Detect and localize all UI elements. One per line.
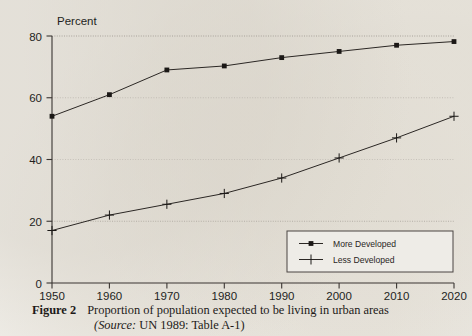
data-point-marker xyxy=(220,189,229,198)
data-point-marker xyxy=(164,68,169,73)
series-less-developed xyxy=(47,112,458,235)
y-tick-label-80: 80 xyxy=(29,31,42,43)
data-point-marker xyxy=(222,64,227,69)
figure-number: Figure 2 xyxy=(32,303,76,317)
x-tick-label-2020: 2020 xyxy=(441,290,467,300)
x-tick-label-1980: 1980 xyxy=(212,290,238,300)
figure-caption: Figure 2Proportion of population expecte… xyxy=(32,303,468,332)
y-tick-label-0: 0 xyxy=(36,278,42,290)
source-prefix: (Source: xyxy=(94,318,136,332)
y-tick-label-60: 60 xyxy=(29,92,42,104)
figure-container: Percent 80 60 40 20 0 1950 1960 1970 198… xyxy=(0,0,472,336)
data-point-marker xyxy=(449,112,458,121)
data-point-marker xyxy=(392,133,401,142)
legend-label-more-developed: More Developed xyxy=(333,239,396,249)
data-point-marker xyxy=(452,39,457,44)
series-more-developed xyxy=(50,39,457,119)
data-point-marker xyxy=(107,92,112,97)
x-tick-label-2010: 2010 xyxy=(384,290,410,300)
caption-text: Proportion of population expected to be … xyxy=(87,303,389,317)
x-tick-label-1960: 1960 xyxy=(97,290,123,300)
source-rest: UN 1989: Table A-1) xyxy=(136,318,244,332)
x-tick-label-1970: 1970 xyxy=(154,290,180,300)
data-point-marker xyxy=(279,55,284,60)
data-point-marker xyxy=(337,49,342,54)
chart-legend: More Developed Less Developed xyxy=(287,231,453,272)
data-series-layer xyxy=(47,39,458,235)
gridlines xyxy=(52,36,454,221)
y-axis-title: Percent xyxy=(57,15,97,27)
x-axis-ticks xyxy=(52,283,454,289)
data-point-marker xyxy=(277,173,286,182)
urban-population-line-chart: Percent 80 60 40 20 0 1950 1960 1970 198… xyxy=(0,0,472,300)
x-tick-label-1990: 1990 xyxy=(269,290,295,300)
x-tick-label-2000: 2000 xyxy=(326,290,352,300)
legend-box xyxy=(287,231,453,272)
y-tick-labels: 80 60 40 20 0 xyxy=(29,31,42,290)
data-point-marker xyxy=(335,153,344,162)
legend-label-less-developed: Less Developed xyxy=(333,255,395,265)
data-point-marker xyxy=(47,226,56,235)
x-tick-label-1950: 1950 xyxy=(39,290,65,300)
data-point-marker xyxy=(394,43,399,48)
y-tick-label-40: 40 xyxy=(29,154,42,166)
data-point-marker xyxy=(162,200,171,209)
series-line xyxy=(52,42,454,117)
x-tick-labels: 1950 1960 1970 1980 1990 2000 2010 2020 xyxy=(39,290,467,300)
series-line xyxy=(52,116,454,230)
y-axis-ticks xyxy=(47,36,53,283)
data-point-marker xyxy=(105,210,114,219)
legend-marker-more-developed xyxy=(309,241,314,246)
caption-line-1: Figure 2Proportion of population expecte… xyxy=(32,303,468,318)
data-point-marker xyxy=(50,114,55,119)
caption-line-2: (Source: UN 1989: Table A-1) xyxy=(94,318,468,333)
y-tick-label-20: 20 xyxy=(29,216,42,228)
